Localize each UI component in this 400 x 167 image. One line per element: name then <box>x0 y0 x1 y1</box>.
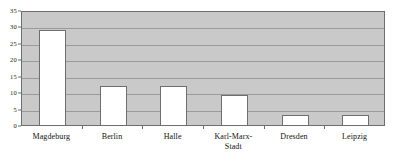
bar <box>342 115 369 125</box>
plot-area <box>21 11 385 126</box>
x-tick-label: Karl-Marx- Stadt <box>214 132 252 152</box>
y-tick-label: 15 <box>10 73 17 80</box>
x-axis: MagdeburgBerlinHalleKarl-Marx- StadtDres… <box>21 126 385 167</box>
bar <box>100 86 127 125</box>
bar <box>160 86 187 125</box>
y-tick-label: 20 <box>10 57 17 64</box>
x-tick-mark <box>203 126 204 129</box>
x-tick-mark <box>324 126 325 129</box>
x-tick-label: Magdeburg <box>33 132 71 142</box>
x-tick-mark <box>264 126 265 129</box>
bar <box>282 115 309 125</box>
x-tick-label: Dresden <box>280 132 307 142</box>
y-tick-label: 5 <box>14 106 17 113</box>
x-tick-label: Berlin <box>102 132 123 142</box>
y-tick-label: 30 <box>10 24 17 31</box>
y-axis: 05101520253035 <box>0 0 21 167</box>
bar <box>39 30 66 125</box>
x-tick-mark <box>82 126 83 129</box>
x-tick-label: Leipzig <box>342 132 367 142</box>
x-tick-mark <box>142 126 143 129</box>
y-tick-label: 10 <box>10 90 17 97</box>
bar <box>221 95 248 125</box>
y-tick-label: 0 <box>14 123 17 130</box>
bar-chart: 05101520253035 MagdeburgBerlinHalleKarl-… <box>0 0 400 167</box>
y-tick-label: 35 <box>10 8 17 15</box>
bars-group <box>22 12 384 125</box>
x-tick-label: Halle <box>164 132 182 142</box>
y-tick-label: 25 <box>10 41 17 48</box>
